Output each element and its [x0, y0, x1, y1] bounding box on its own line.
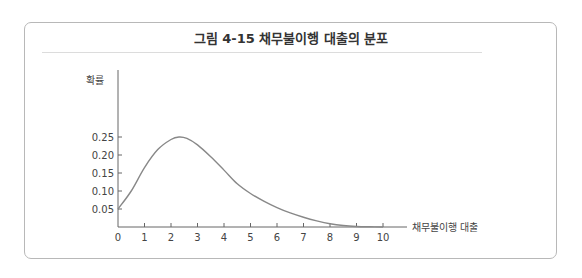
x-tick-label: 6 — [274, 232, 280, 243]
x-tick-label: 9 — [353, 232, 359, 243]
probability-curve — [118, 137, 383, 227]
y-tick-label: 0.10 — [92, 186, 114, 197]
x-tick-label: 0 — [115, 232, 121, 243]
x-tick-label: 5 — [247, 232, 253, 243]
y-tick-label: 0.25 — [92, 132, 114, 143]
y-tick-label: 0.20 — [92, 150, 114, 161]
x-tick-label: 1 — [141, 232, 147, 243]
chart: 0123456789100.050.100.150.200.25 확률 채무불이… — [0, 0, 582, 278]
y-axis-label: 확률 — [86, 75, 104, 86]
x-tick-label: 3 — [194, 232, 200, 243]
y-tick-label: 0.15 — [92, 168, 114, 179]
x-tick-label: 10 — [377, 232, 390, 243]
x-tick-label: 8 — [327, 232, 333, 243]
x-tick-label: 7 — [300, 232, 306, 243]
x-tick-label: 4 — [221, 232, 227, 243]
axes — [118, 70, 407, 227]
x-axis-label: 채무불이행 대출 — [412, 222, 478, 233]
y-tick-label: 0.05 — [92, 204, 114, 215]
x-tick-label: 2 — [168, 232, 174, 243]
